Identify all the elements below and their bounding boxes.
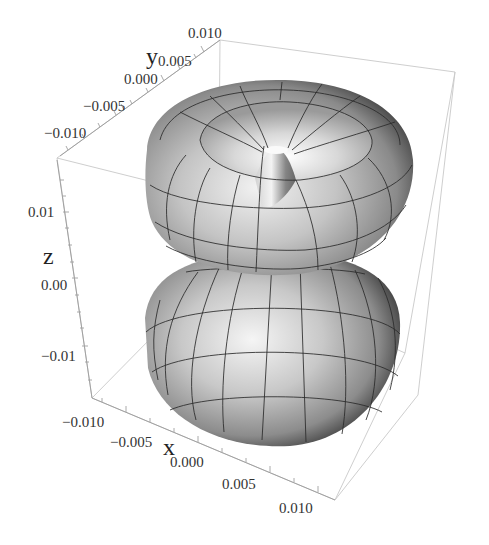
x-axis-label: x (163, 434, 175, 460)
plot-3d[interactable]: 0.010 0.005 0.000 −0.005 −0.010 y 0.01 0… (0, 0, 489, 545)
z-axis-label: z (43, 243, 54, 269)
x-tick-label: 0.010 (279, 500, 313, 516)
x-tick-label: −0.010 (62, 414, 104, 430)
y-tick-label: −0.010 (44, 125, 86, 141)
upper-lobe (145, 80, 413, 275)
x-tick-label: 0.000 (170, 454, 204, 470)
z-tick-label: −0.01 (41, 348, 76, 364)
y-axis-label: y (146, 43, 158, 69)
x-tick-label: −0.005 (110, 434, 152, 450)
y-tick-label: 0.005 (158, 53, 192, 69)
z-axis: 0.01 0.00 −0.01 z (28, 160, 92, 398)
x-tick-label: 0.005 (222, 476, 256, 492)
y-tick-label: 0.000 (124, 71, 158, 87)
z-tick-label: 0.01 (28, 204, 54, 220)
y-tick-label: 0.010 (188, 25, 222, 41)
z-tick-label: 0.00 (41, 277, 67, 293)
lower-lobe (145, 252, 400, 446)
y-tick-label: −0.005 (83, 98, 125, 114)
